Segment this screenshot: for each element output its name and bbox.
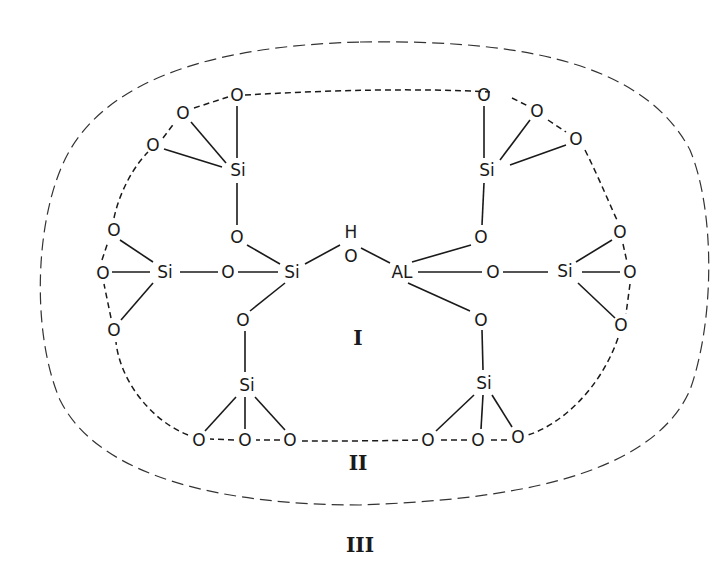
oxygen-atom: O bbox=[107, 220, 120, 240]
silicon-atom-center: Si bbox=[284, 262, 300, 282]
oxygen-atom: O bbox=[511, 427, 524, 447]
oxygen-atom: O bbox=[230, 227, 243, 247]
silicon-atom-right: Si bbox=[557, 261, 573, 281]
oxygen-atom: O bbox=[471, 430, 484, 450]
oxygen-atom: O bbox=[96, 263, 109, 283]
outer-boundary bbox=[40, 42, 708, 505]
oxygen-atom: O bbox=[486, 262, 499, 282]
aluminum-atom: AL bbox=[391, 262, 413, 282]
oxygen-atom: O bbox=[613, 222, 626, 242]
hydroxyl-oxygen-atom: O bbox=[344, 246, 357, 266]
zeolite-diagram: O O O Si O O O O Si O O O O Si O Si H O … bbox=[0, 0, 724, 573]
oxygen-atom: O bbox=[623, 262, 636, 282]
oxygen-atom: O bbox=[146, 135, 159, 155]
oxygen-atom: O bbox=[530, 101, 543, 121]
oxygen-atom: O bbox=[474, 310, 487, 330]
oxygen-atom: O bbox=[176, 103, 189, 123]
region-label-i: I bbox=[353, 326, 362, 350]
oxygen-atom: O bbox=[238, 430, 251, 450]
hydrogen-atom: H bbox=[345, 222, 358, 242]
silicon-atom-bottom-right: Si bbox=[476, 373, 492, 393]
oxygen-atom: O bbox=[283, 430, 296, 450]
oxygen-atom: O bbox=[614, 315, 627, 335]
silicon-atom-bottom-left: Si bbox=[239, 375, 255, 395]
oxygen-atom: O bbox=[107, 320, 120, 340]
oxygen-atom: O bbox=[569, 129, 582, 149]
oxygen-atom: O bbox=[477, 85, 490, 105]
oxygen-atom: O bbox=[221, 262, 234, 282]
oxygen-atom: O bbox=[236, 310, 249, 330]
silicon-atom-left: Si bbox=[157, 262, 173, 282]
oxygen-atom: O bbox=[192, 430, 205, 450]
region-label-ii: II bbox=[349, 451, 368, 475]
ring-boundary bbox=[102, 90, 630, 441]
oxygen-atom: O bbox=[230, 85, 243, 105]
oxygen-atom: O bbox=[421, 430, 434, 450]
silicon-atom-top-left: Si bbox=[230, 160, 246, 180]
oxygen-atom: O bbox=[474, 227, 487, 247]
region-label-iii: III bbox=[346, 533, 374, 557]
silicon-atom-top-right: Si bbox=[479, 160, 495, 180]
atoms: O O O Si O O O O Si O O O O Si O Si H O … bbox=[96, 85, 636, 450]
